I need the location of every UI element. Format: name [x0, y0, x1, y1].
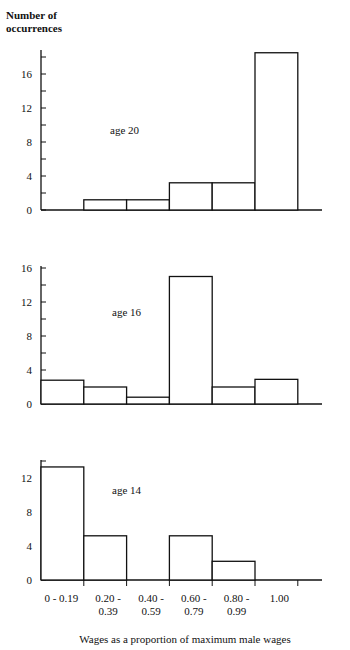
histogram-bar: [127, 397, 170, 404]
histogram-panels: 0481216age 200481216age 1604812age 140 -…: [0, 0, 350, 650]
y-tick-label: 4: [27, 364, 33, 376]
y-tick-label: 12: [21, 472, 32, 484]
histogram-bar: [84, 387, 127, 404]
y-tick-label: 8: [27, 330, 33, 342]
histogram-bar: [212, 183, 255, 210]
histogram-bar: [84, 536, 127, 580]
x-tick-label: 0 - 0.19: [44, 592, 78, 604]
y-tick-label: 12: [21, 296, 32, 308]
y-tick-label: 16: [21, 68, 33, 80]
x-tick-label: 1.00: [270, 592, 290, 604]
y-tick-label: 0: [27, 204, 33, 216]
histogram-bar: [169, 183, 212, 210]
panel-label: age 16: [112, 306, 142, 318]
x-tick-label-line2: 0.59: [141, 605, 161, 617]
histogram-bar: [169, 536, 212, 580]
x-tick-label-line2: 0.39: [99, 605, 119, 617]
panel-label: age 20: [110, 124, 140, 136]
x-tick-label: 0.60 -: [181, 592, 207, 604]
y-tick-label: 16: [21, 262, 33, 274]
y-tick-label: 12: [21, 102, 32, 114]
y-tick-label: 8: [27, 136, 33, 148]
panel-age-16: 0481216age 16: [21, 262, 322, 410]
histogram-bar: [255, 53, 298, 210]
x-tick-label-line2: 0.79: [184, 605, 204, 617]
y-tick-label: 0: [27, 398, 33, 410]
y-tick-label: 4: [27, 540, 33, 552]
y-tick-label: 0: [27, 574, 33, 586]
x-tick-label: 0.80 -: [224, 592, 250, 604]
x-tick-label: 0.40 -: [138, 592, 164, 604]
histogram-bar: [169, 277, 212, 405]
histogram-bar: [84, 200, 127, 210]
y-tick-label: 8: [27, 506, 33, 518]
panel-age-20: 0481216age 20: [21, 50, 322, 216]
histogram-bar: [212, 387, 255, 404]
x-tick-label-line2: 0.99: [227, 605, 247, 617]
x-tick-label: 0.20 -: [95, 592, 121, 604]
histogram-bar: [127, 200, 170, 210]
histogram-bar: [255, 379, 298, 404]
panel-label: age 14: [112, 484, 142, 496]
histogram-bar: [41, 380, 84, 404]
histogram-figure: Number of occurrences 0481216age 2004812…: [0, 0, 350, 650]
y-tick-label: 4: [27, 170, 33, 182]
histogram-bar: [212, 561, 255, 580]
x-axis-title: Wages as a proportion of maximum male wa…: [0, 633, 350, 645]
histogram-bar: [41, 467, 84, 580]
panel-age-14: 04812age 140 - 0.190.20 -0.390.40 -0.590…: [21, 460, 322, 617]
